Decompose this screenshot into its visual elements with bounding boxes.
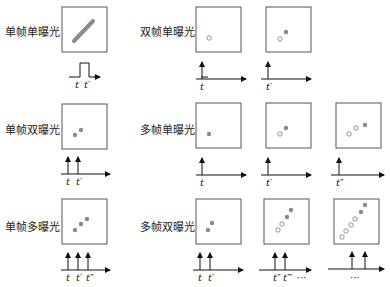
exposure-pulse (69, 63, 96, 77)
time-label-t1: t′ (76, 272, 82, 283)
frame-box (336, 103, 381, 148)
panel-multi-frame-double-exposure-3 (328, 199, 384, 269)
filled-particle (73, 133, 77, 137)
hollow-particle (349, 223, 353, 227)
filled-particle (363, 203, 367, 207)
frame-box (196, 199, 241, 244)
frame-box (266, 103, 311, 148)
hollow-particle (207, 36, 211, 40)
time-label-t1: t′ (208, 272, 214, 283)
filled-particle (359, 210, 363, 214)
time-label-ellipsis: ··· (297, 272, 307, 283)
filled-particle (284, 126, 288, 130)
hollow-particle (280, 222, 284, 226)
filled-particle (285, 215, 289, 219)
filled-particle (73, 228, 77, 232)
panel-multi-frame-single-exposure-3 (331, 103, 384, 175)
frame-box (62, 199, 107, 244)
panel-multi-frame-single-exposure-1 (196, 103, 246, 175)
frame-box (62, 104, 107, 149)
time-label-t: t (66, 176, 70, 187)
time-label-t1: t′ (266, 81, 272, 92)
panel-single-frame-single-exposure (62, 7, 107, 77)
exposure-diagram (0, 0, 390, 287)
panel-double-frame-single-exposure-1 (196, 7, 246, 79)
frame-box (264, 199, 309, 244)
time-label-t3: t‴ (283, 272, 292, 283)
filled-particle (289, 208, 293, 212)
hollow-particle (347, 132, 351, 136)
filled-particle (85, 217, 89, 221)
frame-box (196, 7, 241, 52)
time-label-t: t (198, 272, 202, 283)
hollow-particle (340, 235, 344, 239)
time-label-t: t (75, 79, 79, 90)
time-label-t2: t″ (336, 177, 344, 188)
hollow-particle (353, 217, 357, 221)
time-label-ellipsis: ··· (350, 272, 360, 283)
time-label-t1: t′ (266, 177, 272, 188)
panel-multi-frame-double-exposure-1 (193, 199, 243, 270)
hollow-particle (354, 126, 358, 130)
filled-particle (206, 228, 210, 232)
filled-particle (210, 221, 214, 225)
panel-multi-frame-single-exposure-2 (261, 103, 311, 175)
filled-particle (79, 128, 83, 132)
panel-single-frame-double-exposure (61, 104, 110, 174)
frame-box (196, 103, 241, 148)
frame-box (266, 7, 311, 52)
filled-particle (363, 123, 367, 127)
panel-single-frame-multi-exposure (61, 199, 110, 270)
filled-particle (79, 222, 83, 226)
panel-multi-frame-double-exposure-2 (259, 199, 311, 270)
hollow-particle (278, 132, 282, 136)
time-label-t2: t″ (273, 272, 281, 283)
time-label-t1: t′ (76, 176, 82, 187)
panel-double-frame-single-exposure-2 (261, 7, 311, 79)
time-label-t2: t″ (86, 272, 94, 283)
hollow-particle (344, 229, 348, 233)
time-label-t: t (200, 177, 204, 188)
streak-trace (74, 21, 93, 41)
time-label-t: t (200, 81, 204, 92)
time-label-t1: t′ (84, 79, 90, 90)
time-label-t: t (66, 272, 70, 283)
filled-particle (207, 132, 211, 136)
hollow-particle (278, 37, 282, 41)
hollow-particle (276, 228, 280, 232)
filled-particle (284, 30, 288, 34)
